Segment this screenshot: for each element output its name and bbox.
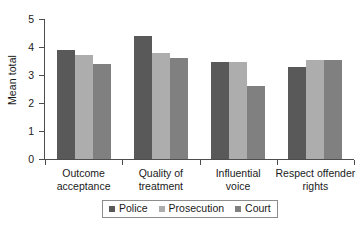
x-axis-tick [354,160,355,165]
bar-prosecution [75,55,93,159]
bar-police [57,50,75,159]
legend-swatch-prosecution-icon [159,206,165,212]
bar-group [200,19,277,159]
x-axis-category-label: Respect offenderrights [273,167,358,192]
y-axis-tick-label: 1 [0,126,34,136]
x-axis-category-label: Quality oftreatment [118,167,203,192]
legend-swatch-court-icon [235,206,241,212]
bar-group [45,19,122,159]
category-label-line1: Influential [216,167,261,179]
y-axis-tick-label: 3 [0,70,34,80]
category-label-line1: Outcome [62,167,105,179]
bar-group [122,19,199,159]
bar-court [324,60,342,159]
category-label-line2: acceptance [41,180,126,193]
bar-court [247,86,265,159]
plot-area [45,19,354,159]
category-label-line2: voice [196,180,281,193]
y-axis-tick-label: 4 [0,42,34,52]
legend-label-prosecution: Prosecution [169,203,224,214]
bar-chart: Mean total 012345 OutcomeacceptanceQuali… [0,0,364,227]
bar-court [170,58,188,159]
y-axis-title: Mean total [2,0,22,160]
legend-item-prosecution: Prosecution [159,203,224,214]
category-label-line2: rights [273,180,358,193]
x-axis-tick [122,160,123,165]
x-axis-tick [200,160,201,165]
legend-item-police: Police [109,203,148,214]
legend-item-court: Court [235,203,271,214]
legend-swatch-police-icon [109,206,115,212]
bar-prosecution [229,62,247,159]
bar-prosecution [306,60,324,159]
bar-group [277,19,354,159]
x-axis-category-label: Influentialvoice [196,167,281,192]
x-axis-category-label: Outcomeacceptance [41,167,126,192]
legend-label-police: Police [119,203,148,214]
legend-label-court: Court [245,203,271,214]
bar-prosecution [152,53,170,159]
x-axis-tick [45,160,46,165]
bar-court [93,64,111,159]
y-axis-tick-label: 2 [0,98,34,108]
bar-police [211,62,229,159]
category-label-line1: Respect offender [275,167,355,179]
chart-legend: Police Prosecution Court [102,200,278,218]
y-axis-tick-label: 5 [0,14,34,24]
category-label-line2: treatment [118,180,203,193]
bar-police [134,36,152,159]
x-axis-tick [277,160,278,165]
y-axis-tick-label: 0 [0,154,34,164]
bar-police [288,67,306,159]
category-label-line1: Quality of [139,167,183,179]
